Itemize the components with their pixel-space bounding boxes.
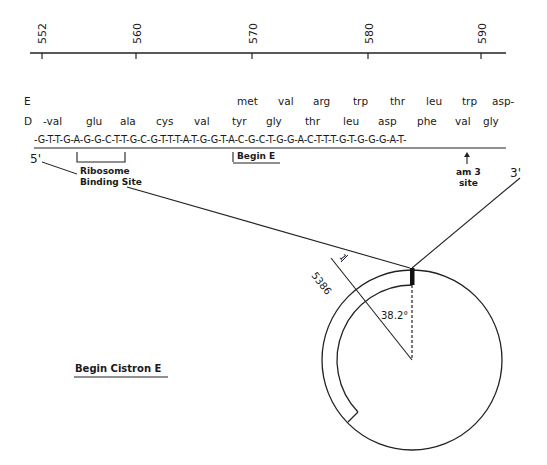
e-residue: val	[278, 95, 294, 107]
rbs-bracket	[77, 152, 125, 162]
angle-label: 38.2°	[381, 310, 408, 321]
rbs-label-line2: Binding Site	[80, 177, 142, 187]
left-expansion-line	[127, 187, 410, 268]
cistron-e-arc	[337, 285, 412, 412]
am3-label-line1: am 3	[456, 167, 481, 177]
e-residue: thr	[390, 95, 405, 107]
rbs-label-line1: Ribosome	[80, 166, 130, 176]
d-residue: val	[455, 115, 471, 127]
three-prime-label: 3'	[510, 166, 521, 180]
region-marker	[410, 268, 415, 285]
d-residue: thr	[305, 115, 320, 127]
begin-cistron-e-label: Begin Cistron E	[75, 363, 161, 374]
begin-e-label: Begin E	[237, 151, 275, 161]
d-residue: val	[194, 115, 210, 127]
axis-tick-label: 552	[36, 23, 49, 44]
d-residue: -val	[43, 115, 62, 127]
e-residue: trp	[353, 95, 368, 107]
axis-tick-label: 590	[476, 23, 489, 44]
axis-tick-label: 570	[247, 23, 260, 44]
five-prime-label: 5'	[30, 152, 41, 166]
cistron-e-arc-end	[348, 412, 358, 422]
right-expansion-line	[412, 178, 520, 268]
d-residue: gly	[483, 115, 499, 127]
d-residue: ala	[120, 115, 136, 127]
am3-arrow-head	[464, 152, 470, 157]
axis-tick-label: 560	[131, 23, 144, 44]
d-residue: asp	[378, 115, 397, 127]
origin-radial-line	[331, 258, 412, 360]
e-residue: met	[237, 95, 258, 107]
e-residue: leu	[426, 95, 442, 107]
diagram-graphics	[0, 0, 547, 465]
d-residue: leu	[343, 115, 359, 127]
e-residue: asp-	[492, 95, 514, 107]
d-residue: glu	[86, 115, 102, 127]
dna-sequence: -G-T-T-G-A-G-G-C-T-T-G-C-G-T-T-T-A-T-G-G…	[34, 134, 406, 145]
five-prime-leader	[42, 162, 77, 174]
gene-d-row-label: D	[24, 115, 32, 127]
d-residue: gly	[266, 115, 282, 127]
d-residue: phe	[417, 115, 437, 127]
axis-ticks	[42, 53, 481, 59]
d-residue: cys	[156, 115, 173, 127]
am3-label-line2: site	[459, 178, 478, 188]
e-residue: trp	[462, 95, 477, 107]
gene-e-row-label: E	[24, 95, 31, 107]
axis-tick-label: 580	[363, 23, 376, 44]
e-residue: arg	[313, 95, 330, 107]
d-residue: tyr	[232, 115, 247, 127]
